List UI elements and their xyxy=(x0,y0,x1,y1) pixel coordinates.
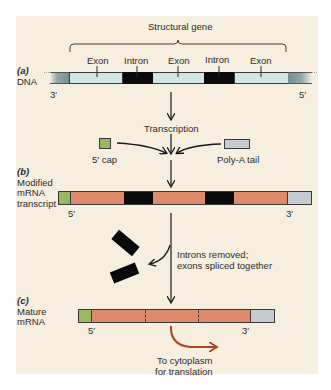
mature-mrna-line-2: mRNA xyxy=(17,317,47,328)
mature-mrna-bar xyxy=(78,309,275,323)
panel-b-tag: (b) xyxy=(17,167,56,178)
export-label-line-2: for translation xyxy=(155,366,213,377)
mrna-c-poly-a xyxy=(250,310,274,322)
mature-mrna-label: (c) Mature mRNA xyxy=(17,296,47,328)
mrna-b-3prime: 3′ xyxy=(286,208,293,219)
dna-exon-2 xyxy=(153,72,204,84)
structural-gene-label: Structural gene xyxy=(148,21,212,32)
poly-a-tail-box xyxy=(224,139,250,149)
dna-flank-right xyxy=(288,72,312,84)
dna-strand xyxy=(50,72,312,84)
intron-label-2: Intron xyxy=(205,54,229,65)
dna-flank-left xyxy=(50,72,70,84)
five-prime-cap-label: 5′ cap xyxy=(92,154,117,165)
modified-mrna-label: (b) Modified mRNA transcript xyxy=(17,167,56,209)
splicing-label-line-2: exons spliced together xyxy=(177,260,272,271)
modified-mrna-line-3: transcript xyxy=(17,199,56,210)
dna-text: DNA xyxy=(17,76,37,87)
mrna-c-5prime: 5′ xyxy=(88,325,95,336)
panel-c-tag: (c) xyxy=(17,296,47,307)
intron-label-1: Intron xyxy=(124,55,148,66)
mrna-b-intron-2 xyxy=(205,192,234,204)
dna-3prime: 3′ xyxy=(50,89,57,100)
exon-label-3: Exon xyxy=(250,55,272,66)
modified-mrna-line-2: mRNA xyxy=(17,188,56,199)
mrna-b-intron-1 xyxy=(124,192,153,204)
dna-5prime: 5′ xyxy=(299,89,306,100)
export-label-line-1: To cytoplasm xyxy=(157,355,212,366)
five-prime-cap-box xyxy=(99,138,111,149)
mrna-b-poly-a xyxy=(287,192,311,204)
dna-intron-1 xyxy=(123,72,153,84)
splice-junction-2 xyxy=(198,310,199,322)
dna-intron-2 xyxy=(204,72,234,84)
mrna-c-3prime: 3′ xyxy=(242,325,249,336)
splice-junction-1 xyxy=(145,310,146,322)
transcription-label: Transcription xyxy=(144,123,199,134)
splicing-label-line-1: Introns removed; xyxy=(177,249,248,260)
mrna-b-cap xyxy=(59,192,71,204)
exon-label-2: Exon xyxy=(168,55,190,66)
dna-label: (a) DNA xyxy=(17,66,37,87)
dna-exon-1 xyxy=(69,72,123,84)
exon-label-1: Exon xyxy=(87,55,109,66)
mrna-c-cap xyxy=(79,310,92,322)
modified-mrna-bar xyxy=(58,191,312,205)
dna-exon-3 xyxy=(234,72,289,84)
mrna-b-5prime: 5′ xyxy=(68,208,75,219)
poly-a-tail-label: Poly-A tail xyxy=(217,154,259,165)
